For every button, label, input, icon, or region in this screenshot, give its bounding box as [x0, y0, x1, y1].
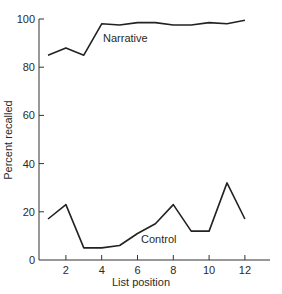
- y-axis: 020406080100: [17, 13, 44, 266]
- y-tick-label: 0: [29, 254, 35, 266]
- x-tick-label: 8: [170, 264, 176, 276]
- line-chart: 020406080100 24681012 List position Perc…: [0, 0, 282, 294]
- x-tick-label: 6: [134, 264, 140, 276]
- y-tick-label: 20: [23, 206, 35, 218]
- series-label-control: Control: [141, 233, 176, 245]
- x-tick-label: 12: [239, 264, 251, 276]
- x-tick-label: 2: [63, 264, 69, 276]
- x-tick-label: 4: [99, 264, 105, 276]
- y-tick-label: 60: [23, 109, 35, 121]
- y-tick-label: 80: [23, 61, 35, 73]
- y-tick-label: 40: [23, 158, 35, 170]
- y-axis-title: Percent recalled: [2, 100, 14, 180]
- x-axis-title: List position: [112, 276, 170, 288]
- x-tick-label: 10: [203, 264, 215, 276]
- y-tick-label: 100: [17, 13, 35, 25]
- series-label-narrative: Narrative: [103, 32, 148, 44]
- x-axis: 24681012: [39, 255, 270, 276]
- series-lines: [48, 20, 245, 248]
